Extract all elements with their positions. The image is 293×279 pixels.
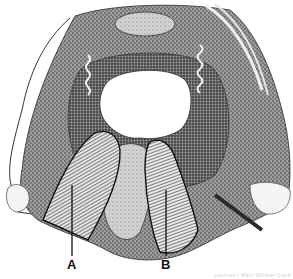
image-credit: Lifelines / Mary Millikan Clark [214, 272, 291, 278]
anatomical-cross-section [0, 0, 293, 279]
side-structure-left [6, 185, 29, 212]
central-lumen [100, 70, 191, 138]
label-a: A [67, 258, 76, 271]
label-b: B [161, 258, 170, 271]
dorsal-structure [115, 12, 175, 36]
